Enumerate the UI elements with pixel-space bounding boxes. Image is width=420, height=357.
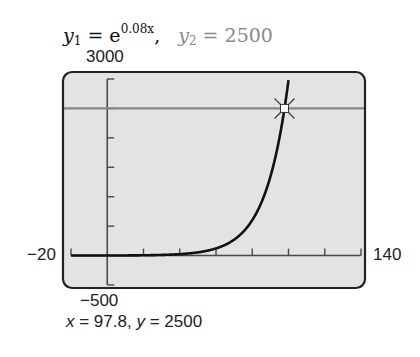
result-x-name: x bbox=[66, 312, 75, 331]
result-x-value: = 97.8, bbox=[75, 312, 137, 331]
intersection-result: x = 97.8, y = 2500 bbox=[66, 312, 202, 332]
result-y-name: y bbox=[136, 312, 145, 331]
calculator-screen bbox=[0, 0, 420, 357]
result-y-value: = 2500 bbox=[145, 312, 202, 331]
